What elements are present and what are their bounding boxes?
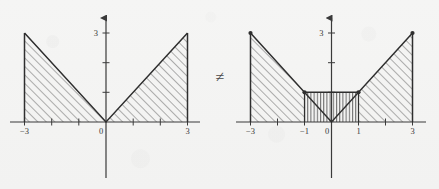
left-plot: −3 0 3 3 <box>10 18 200 178</box>
left-plot-xlabel-0: 0 <box>99 126 103 136</box>
right-plot-xlabel--1: −1 <box>300 126 309 136</box>
right-plot-region-right-trapezoid <box>359 33 413 122</box>
not-equal-symbol: ≠ <box>216 68 225 85</box>
left-plot-ylabel-3: 3 <box>94 28 98 38</box>
left-plot-xlabel-3: 3 <box>185 126 189 136</box>
right-plot-xlabel-0: 0 <box>325 126 329 136</box>
point-neg1-1-marker <box>302 90 306 94</box>
point-3-3-marker <box>410 31 414 35</box>
right-plot-xlabel--3: −3 <box>246 126 255 136</box>
math-figure: −3 0 3 3 ≠ <box>0 0 439 189</box>
right-plot-xlabel-3: 3 <box>410 126 414 136</box>
right-plot: −3 −1 0 1 3 3 <box>236 18 426 178</box>
left-plot-xlabel--3: −3 <box>20 126 29 136</box>
right-plot-ylabel-3: 3 <box>319 28 323 38</box>
right-plot-xlabel-1: 1 <box>356 126 360 136</box>
point-1-1-marker <box>356 90 360 94</box>
point-neg3-3-marker <box>248 31 252 35</box>
right-plot-region-left-trapezoid <box>251 33 305 122</box>
